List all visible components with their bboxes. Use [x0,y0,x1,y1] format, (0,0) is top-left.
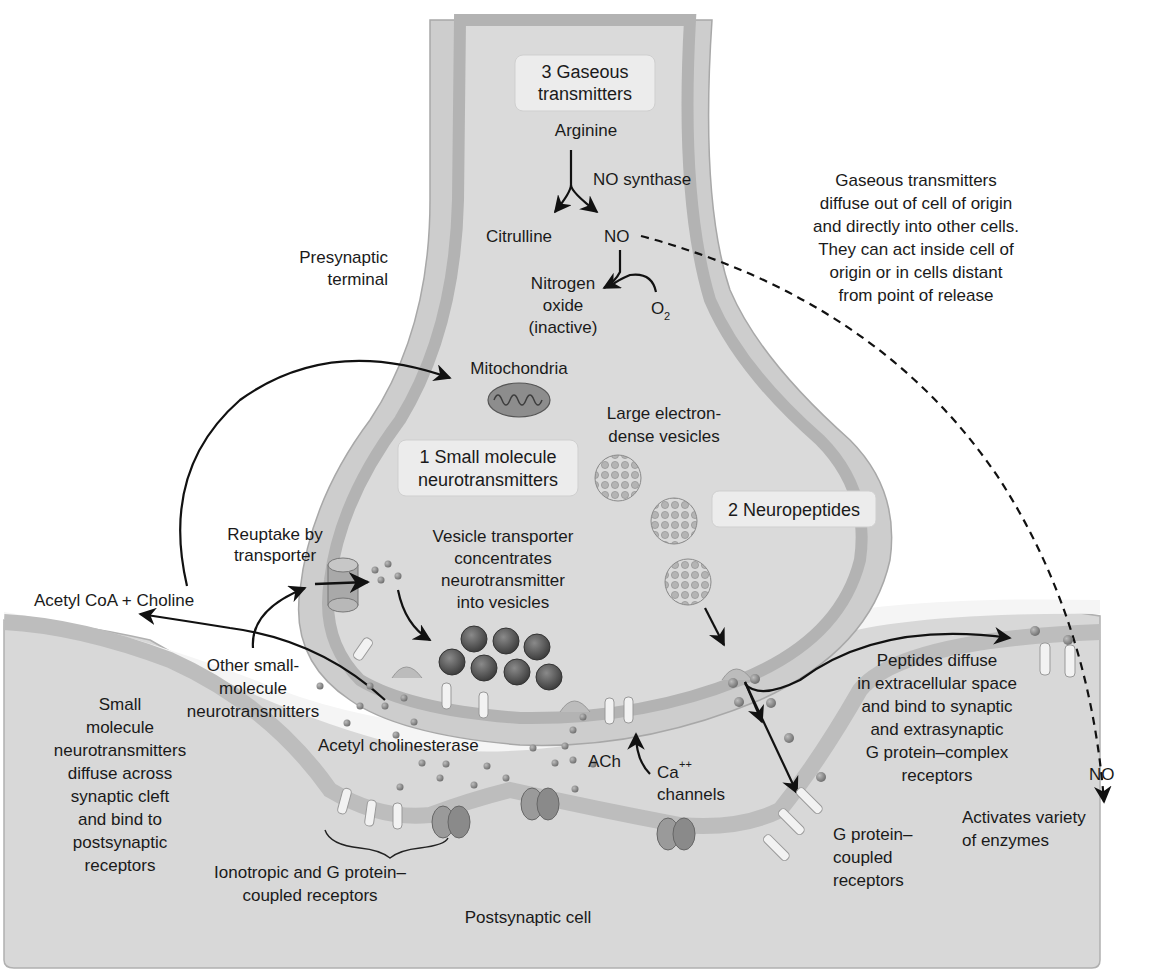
svg-text:transmitters: transmitters [538,84,632,104]
label-no-top: NO [604,227,630,246]
mitochondrion-icon [488,383,550,417]
synapse-diagram: 3 Gaseous transmitters 1 Small molecule … [0,0,1159,975]
svg-text:and extrasynaptic: and extrasynaptic [870,720,1004,739]
svg-text:receptors: receptors [833,871,904,890]
svg-text:coupled: coupled [833,848,893,867]
svg-text:neurotransmitters: neurotransmitters [418,470,558,490]
label-no-bottom: NO [1089,765,1115,784]
gaseous-transmitters-note: Gaseous transmitters diffuse out of cell… [813,171,1019,305]
svg-text:Vesicle transporter: Vesicle transporter [433,527,574,546]
svg-text:Reuptake by: Reuptake by [227,525,323,544]
svg-text:diffuse out of cell of origin: diffuse out of cell of origin [820,194,1012,213]
svg-text:Small: Small [99,695,142,714]
label-arginine: Arginine [555,121,617,140]
svg-text:Other small-: Other small- [207,656,300,675]
svg-text:postsynaptic: postsynaptic [73,833,168,852]
svg-text:terminal: terminal [328,270,388,289]
svg-text:Presynaptic: Presynaptic [299,248,388,267]
svg-text:of enzymes: of enzymes [962,831,1049,850]
label-no-synthase: NO synthase [593,170,691,189]
svg-text:coupled receptors: coupled receptors [242,886,377,905]
label-acetyl-cholinesterase: Acetyl cholinesterase [318,736,479,755]
svg-text:Activates variety: Activates variety [962,808,1086,827]
reuptake-transporter-icon [328,558,358,612]
svg-text:dense vesicles: dense vesicles [608,427,720,446]
svg-text:concentrates: concentrates [454,549,551,568]
svg-text:Ionotropic and G protein–: Ionotropic and G protein– [214,863,406,882]
label-ach: ACh [588,752,621,771]
svg-text:++: ++ [679,758,692,770]
label-presynaptic-terminal: Presynaptic terminal [299,248,388,289]
svg-text:channels: channels [657,785,725,804]
svg-text:3 Gaseous: 3 Gaseous [541,62,628,82]
label-box-gaseous-transmitters: 3 Gaseous transmitters [515,55,655,111]
svg-text:into vesicles: into vesicles [457,593,550,612]
svg-text:and bind to synaptic: and bind to synaptic [861,697,1013,716]
svg-text:G protein–complex: G protein–complex [866,743,1009,762]
svg-text:molecule: molecule [219,679,287,698]
svg-text:2 Neuropeptides: 2 Neuropeptides [728,500,860,520]
svg-text:transporter: transporter [234,546,317,565]
svg-text:1 Small molecule: 1 Small molecule [419,447,556,467]
svg-text:from point of release: from point of release [839,286,994,305]
svg-text:(inactive): (inactive) [529,318,598,337]
svg-text:neurotransmitters: neurotransmitters [187,702,319,721]
label-mitochondria: Mitochondria [470,359,568,378]
label-postsynaptic-cell: Postsynaptic cell [465,908,592,927]
svg-text:synaptic cleft: synaptic cleft [71,787,170,806]
svg-text:receptors: receptors [85,856,156,875]
label-box-small-molecule: 1 Small molecule neurotransmitters [398,440,578,496]
svg-text:They can act inside cell of: They can act inside cell of [818,240,1014,259]
label-large-vesicles: Large electron- [607,404,721,423]
svg-text:oxide: oxide [543,296,584,315]
svg-text:in extracellular space: in extracellular space [857,674,1017,693]
svg-text:Nitrogen: Nitrogen [531,274,595,293]
svg-text:Gaseous transmitters: Gaseous transmitters [835,171,997,190]
label-box-neuropeptides: 2 Neuropeptides [712,491,876,527]
svg-text:diffuse across: diffuse across [68,764,173,783]
svg-text:and directly into other cells.: and directly into other cells. [813,217,1019,236]
svg-text:receptors: receptors [902,766,973,785]
svg-text:neurotransmitters: neurotransmitters [54,741,186,760]
svg-text:O: O [651,299,664,318]
svg-text:origin or in cells distant: origin or in cells distant [830,263,1003,282]
label-citrulline: Citrulline [486,227,552,246]
svg-text:Ca: Ca [657,763,679,782]
svg-text:neurotransmitter: neurotransmitter [441,571,565,590]
svg-text:and bind to: and bind to [78,810,162,829]
svg-text:2: 2 [664,310,670,322]
svg-text:Peptides diffuse: Peptides diffuse [877,651,998,670]
label-acetyl-coa: Acetyl CoA + Choline [34,591,194,610]
svg-text:G protein–: G protein– [833,825,913,844]
svg-text:molecule: molecule [86,718,154,737]
